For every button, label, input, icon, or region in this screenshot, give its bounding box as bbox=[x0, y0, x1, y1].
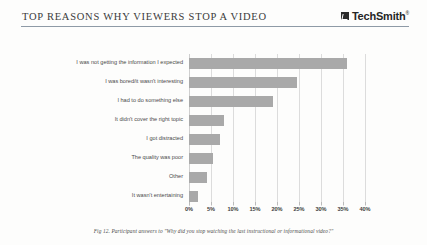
category-label: I got distracted bbox=[146, 132, 183, 144]
tick-label: 15% bbox=[249, 206, 260, 212]
tick-mark bbox=[211, 202, 212, 205]
bar-row: It didn't cover the right topic bbox=[189, 111, 365, 130]
category-label: It didn't cover the right topic bbox=[115, 113, 183, 125]
bar bbox=[189, 153, 213, 164]
tick-mark bbox=[365, 202, 366, 205]
bar-row: The quality was poor bbox=[189, 149, 365, 168]
figure-caption: Fig 12. Participant answers to "Why did … bbox=[0, 228, 427, 234]
tick-mark bbox=[321, 202, 322, 205]
figure-page: TOP REASONS WHY VIEWERS STOP A VIDEO Tec… bbox=[0, 0, 427, 245]
tick-mark bbox=[255, 202, 256, 205]
page-title: TOP REASONS WHY VIEWERS STOP A VIDEO bbox=[22, 11, 267, 22]
techsmith-logo-icon bbox=[341, 12, 349, 20]
bar-row: I had to do something else bbox=[189, 92, 365, 111]
gridline-40pct bbox=[365, 54, 366, 206]
tick-label: 30% bbox=[315, 206, 326, 212]
tick-label: 25% bbox=[293, 206, 304, 212]
bar bbox=[189, 58, 347, 69]
category-label: I was bored/it wasn't interesting bbox=[105, 75, 183, 87]
bar bbox=[189, 191, 198, 202]
plot-area: I was not getting the information I expe… bbox=[189, 54, 365, 206]
tick-label: 0% bbox=[185, 206, 193, 212]
category-label: I was not getting the information I expe… bbox=[76, 56, 183, 68]
brand-trademark: ® bbox=[406, 10, 409, 16]
tick-mark bbox=[277, 202, 278, 205]
category-label: It wasn't entertaining bbox=[132, 189, 183, 201]
tick-label: 5% bbox=[207, 206, 215, 212]
bar-row: Other bbox=[189, 168, 365, 187]
x-axis-ticks: 0%5%10%15%20%25%30%35%40% bbox=[189, 206, 365, 220]
brand-name: TechSmith® bbox=[352, 10, 409, 22]
tick-label: 40% bbox=[359, 206, 370, 212]
tick-mark bbox=[233, 202, 234, 205]
bar-row: I was not getting the information I expe… bbox=[189, 54, 365, 73]
category-label: The quality was poor bbox=[131, 151, 183, 163]
techsmith-brand: TechSmith® bbox=[341, 10, 409, 22]
bar-row: I got distracted bbox=[189, 130, 365, 149]
bar bbox=[189, 172, 207, 183]
bar bbox=[189, 96, 273, 107]
tick-label: 20% bbox=[271, 206, 282, 212]
bar bbox=[189, 134, 220, 145]
category-label: Other bbox=[169, 170, 183, 182]
tick-mark bbox=[189, 202, 190, 205]
header-divider bbox=[21, 26, 409, 27]
bar bbox=[189, 115, 224, 126]
tick-label: 35% bbox=[337, 206, 348, 212]
bar-chart: I was not getting the information I expe… bbox=[0, 40, 427, 220]
brand-name-text: TechSmith bbox=[352, 10, 406, 22]
tick-mark bbox=[299, 202, 300, 205]
bar bbox=[189, 77, 297, 88]
tick-mark bbox=[343, 202, 344, 205]
tick-label: 10% bbox=[227, 206, 238, 212]
category-label: I had to do something else bbox=[117, 94, 183, 106]
bar-rows: I was not getting the information I expe… bbox=[189, 54, 365, 206]
bar-row: I was bored/it wasn't interesting bbox=[189, 73, 365, 92]
